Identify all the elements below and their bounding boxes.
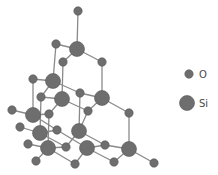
silicon-atom [26, 108, 41, 123]
silicon-atom [95, 91, 110, 106]
legend-oxygen-label: O [199, 69, 207, 80]
oxygen-atom [29, 75, 37, 83]
oxygen-atom [62, 143, 70, 151]
oxygen-atom [84, 107, 92, 115]
legend: O Si [180, 69, 209, 111]
oxygen-atom [125, 109, 133, 117]
oxygen-atom [150, 159, 158, 167]
oxygen-atom [101, 141, 109, 149]
oxygen-atom [76, 89, 84, 97]
oxygen-atom [37, 93, 45, 101]
atoms [8, 7, 158, 168]
silicon-atom [33, 126, 48, 141]
legend-oxygen-icon [185, 70, 193, 78]
oxygen-atom [74, 7, 82, 15]
oxygen-atom [71, 160, 79, 168]
oxygen-atom [98, 58, 106, 66]
oxygen-atom [45, 110, 53, 118]
oxygen-atom [59, 58, 67, 66]
silicon-atom [41, 141, 56, 156]
oxygen-atom [16, 123, 24, 131]
oxygen-atom [24, 140, 32, 148]
silicon-atom [46, 74, 61, 89]
silicon-atom [70, 42, 85, 57]
silicon-atom [80, 141, 95, 156]
oxygen-atom [32, 157, 40, 165]
silicon-dioxide-lattice-diagram: O Si [0, 0, 218, 175]
oxygen-atom [53, 126, 61, 134]
silicon-atom [122, 142, 137, 157]
legend-silicon-label: Si [199, 98, 208, 109]
bonds [12, 11, 154, 164]
silicon-atom [55, 92, 70, 107]
legend-silicon-icon [180, 96, 195, 111]
oxygen-atom [110, 158, 118, 166]
oxygen-atom [52, 40, 60, 48]
silicon-atom [72, 124, 87, 139]
oxygen-atom [8, 106, 16, 114]
